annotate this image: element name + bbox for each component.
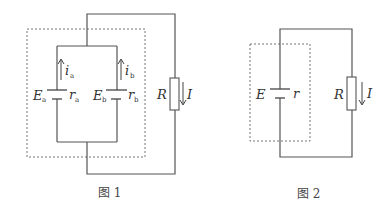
figure-2-caption: 图 2 — [297, 187, 320, 201]
emf-sub-b: b — [102, 96, 107, 104]
resistance-sub-ra: a — [75, 96, 79, 104]
current-sub-ia: a — [70, 72, 74, 80]
emf-sub-a: a — [42, 96, 46, 104]
current-arrow-ia-icon — [58, 59, 64, 80]
current-label-ib: i — [125, 63, 129, 78]
load-resistor-1 — [170, 78, 179, 110]
load-current-label-1: I — [186, 87, 193, 102]
emf-label: E — [255, 87, 266, 102]
current-arrow-ib-icon — [118, 59, 124, 80]
current-label-ia: i — [65, 63, 69, 78]
current-sub-ib: b — [130, 72, 135, 80]
resistor-label-1: R — [156, 87, 167, 102]
resistor-label-2: R — [333, 87, 344, 102]
resistance-sub-rb: b — [134, 96, 139, 104]
load-resistor-2 — [347, 77, 356, 110]
figure-1-caption: 图 1 — [98, 186, 121, 200]
figure-1: i a i b E a r a E b r b R I 图 1 — [27, 14, 193, 200]
load-current-arrow-2-icon — [359, 82, 365, 105]
circuit-diagrams: i a i b E a r a E b r b R I 图 1 E — [0, 0, 391, 211]
wire-top-2 — [280, 29, 352, 89]
load-current-arrow-1-icon — [180, 82, 186, 105]
figure-2: E r R I 图 2 — [250, 29, 373, 201]
wire-bottom-2 — [280, 98, 352, 157]
load-current-label-2: I — [366, 86, 373, 101]
resistance-label-r: r — [293, 86, 300, 101]
